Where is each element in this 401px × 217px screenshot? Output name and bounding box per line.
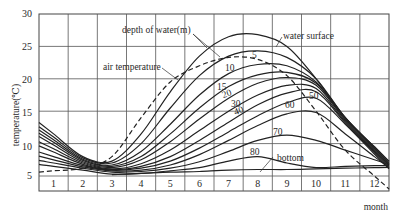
y-axis: 30 25 20 15 10 5 [22, 8, 32, 181]
month-label: 9 [284, 178, 289, 189]
depth-60-label: 60 [285, 100, 295, 110]
depth-leader-2 [193, 34, 220, 57]
month-label: 2 [80, 178, 85, 189]
y-tick-10: 10 [22, 141, 32, 152]
depth-70-label: 70 [273, 127, 283, 137]
y-tick-20: 20 [22, 74, 32, 85]
air-temperature-label: air temperature [103, 62, 161, 72]
air-temperature-leader [162, 68, 178, 80]
x-axis-label: month [364, 202, 389, 212]
water-surface-label: water surface [283, 31, 334, 41]
month-label: 8 [255, 178, 260, 189]
month-label: 10 [311, 178, 321, 189]
depth-50-label: 50 [309, 91, 319, 101]
month-label: 1 [51, 178, 56, 189]
bottom-label: bottom [277, 153, 305, 163]
month-label: 4 [139, 178, 144, 189]
month-label: 7 [226, 178, 231, 189]
depth-title-label: depth of water(m) [122, 25, 191, 36]
month-label: 5 [168, 178, 173, 189]
depth-10-label: 10 [225, 63, 235, 73]
y-tick-30: 30 [22, 8, 32, 19]
y-tick-5: 5 [27, 170, 32, 181]
month-label: 11 [340, 178, 350, 189]
y-tick-25: 25 [22, 41, 32, 52]
month-label: 6 [197, 178, 202, 189]
depth-5-label: 5 [252, 50, 257, 60]
x-axis-months: 123456789101112 [51, 178, 379, 189]
water-temperature-chart: 30 25 20 15 10 5 temperature(℃) 12345678… [0, 0, 401, 217]
y-tick-15: 15 [22, 107, 32, 118]
y-axis-label: temperature(℃) [11, 84, 22, 146]
depth-80-label: 80 [250, 147, 260, 157]
month-label: 3 [109, 178, 114, 189]
